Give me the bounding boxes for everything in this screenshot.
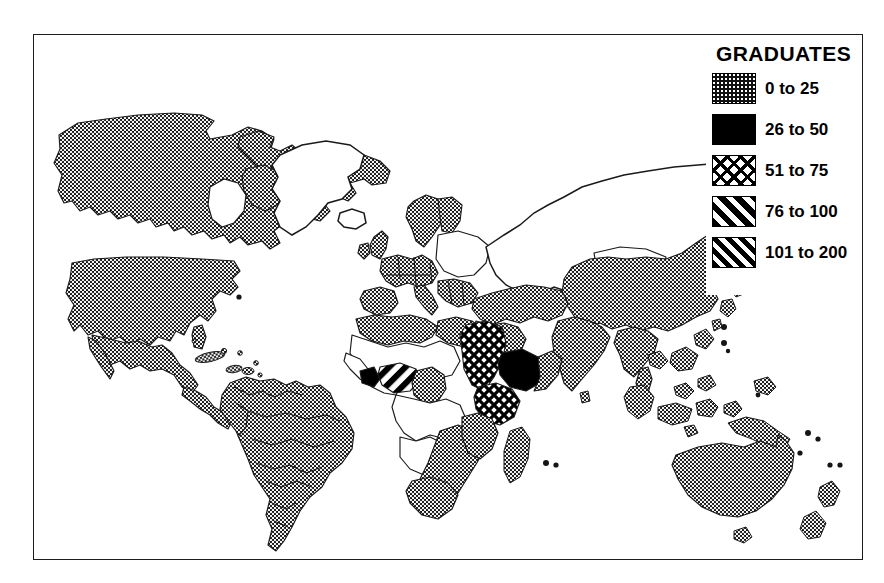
region-western-europe [380, 255, 438, 287]
map-legend: GRADUATES 0 to 25 26 to 50 51 to 75 76 t… [706, 35, 863, 295]
region-united-kingdom [370, 231, 388, 259]
region-iceland [338, 209, 366, 229]
region-middle-east [472, 285, 568, 325]
region-iberia [360, 287, 398, 315]
region-madagascar [504, 427, 530, 483]
region-florida [192, 325, 206, 349]
legend-label-26-to-50: 26 to 50 [765, 121, 828, 138]
region-south-america [220, 377, 354, 551]
region-new-zealand-south [800, 511, 826, 539]
region-reunion [553, 462, 558, 467]
legend-label-51-to-75: 51 to 75 [765, 162, 828, 179]
region-sudan-egypt [460, 321, 506, 391]
region-ireland [358, 243, 370, 259]
legend-item-26-to-50: 26 to 50 [712, 113, 863, 146]
legend-swatch-narrow-diagonal-stripes [712, 237, 756, 268]
map-figure-frame: GRADUATES 0 to 25 26 to 50 51 to 75 76 t… [33, 34, 863, 560]
region-eastern-europe-nodata [436, 231, 490, 277]
legend-swatch-fine-dot-stipple [712, 73, 756, 104]
region-australia [672, 435, 794, 517]
legend-item-101-to-200: 101 to 200 [712, 236, 863, 269]
legend-swatch-diagonal-crosshatch [712, 155, 756, 186]
region-united-states [66, 257, 240, 345]
region-india [552, 317, 610, 391]
region-bermuda [236, 294, 241, 299]
legend-title: GRADUATES [716, 42, 863, 66]
region-fiji [754, 377, 776, 395]
legend-swatch-solid-black [712, 114, 756, 145]
legend-item-76-to-100: 76 to 100 [712, 195, 863, 228]
region-balkans [438, 279, 478, 307]
legend-label-0-to-25: 0 to 25 [765, 80, 819, 97]
region-mauritius [543, 460, 549, 466]
region-italy [414, 285, 438, 315]
legend-swatch-wide-diagonal-stripes [712, 196, 756, 227]
region-sri-lanka [580, 391, 590, 403]
region-finland [438, 197, 462, 233]
region-nigeria [412, 367, 446, 403]
region-tasmania [734, 527, 752, 543]
region-zimbabwe-mozambique [462, 413, 498, 459]
legend-item-51-to-75: 51 to 75 [712, 154, 863, 187]
legend-label-101-to-200: 101 to 200 [765, 244, 847, 261]
legend-label-76-to-100: 76 to 100 [765, 203, 838, 220]
legend-item-0-to-25: 0 to 25 [712, 72, 863, 105]
region-southeast-asia [614, 327, 658, 377]
region-new-zealand-north [818, 481, 840, 507]
